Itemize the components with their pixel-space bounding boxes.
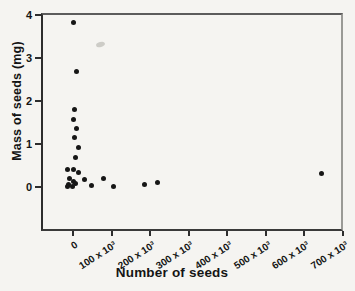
- x-tick-mark: [188, 231, 190, 236]
- x-tick-mark: [226, 231, 228, 236]
- x-tick-mark: [265, 231, 267, 236]
- x-tick-label: 0: [69, 239, 80, 251]
- x-tick-label: 500 x 10³: [231, 239, 272, 271]
- x-tick-mark: [303, 231, 305, 236]
- x-axis-title: Number of seeds: [116, 265, 229, 280]
- x-tick-label: 700 x 10³: [309, 239, 350, 271]
- x-tick-mark: [342, 231, 344, 236]
- x-tick-label: 100 x 10³: [77, 239, 118, 271]
- y-tick-label: 4: [10, 8, 32, 22]
- x-tick-mark: [111, 231, 113, 236]
- x-tick-label: 600 x 10³: [270, 239, 311, 271]
- plot-area: [41, 13, 343, 231]
- x-tick-mark: [72, 231, 74, 236]
- x-tick-mark: [149, 231, 151, 236]
- seed-mass-vs-number-scatter-figure: 01234 0100 x 10³200 x 10³300 x 10³400 x …: [0, 0, 355, 291]
- y-tick-label: 0: [10, 180, 32, 194]
- y-axis-title: Mass of seeds (mg): [10, 41, 24, 161]
